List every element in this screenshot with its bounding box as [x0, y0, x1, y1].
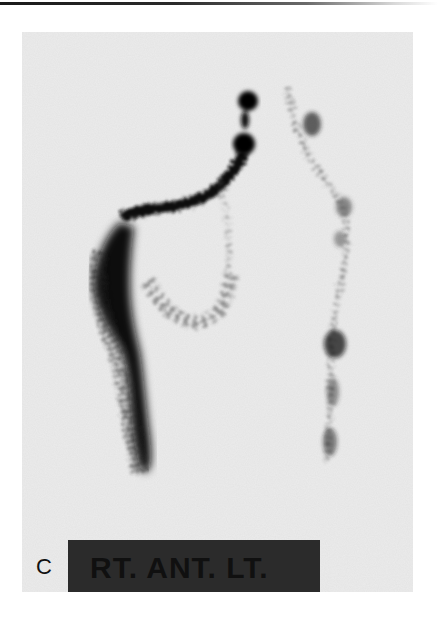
top-rule	[0, 2, 438, 5]
scintigraphy-image	[22, 32, 413, 592]
panel-letter: C	[36, 556, 52, 578]
scan-graphic	[22, 32, 413, 592]
orientation-label-text: RT. ANT. LT.	[90, 553, 269, 583]
orientation-label-box: RT. ANT. LT.	[68, 540, 320, 592]
